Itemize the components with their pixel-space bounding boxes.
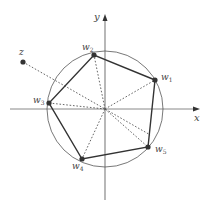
coordinate-axes [10, 14, 200, 200]
point-w2 [91, 52, 96, 57]
point-w3 [46, 100, 51, 105]
label-w2: w2 [82, 42, 94, 53]
label-z: z [18, 47, 24, 57]
y-axis-label: y [93, 11, 100, 22]
x-arrow-icon [193, 107, 200, 112]
labels: w1w2w3w4w5zxy [18, 11, 200, 172]
label-w1: w1 [161, 72, 173, 83]
point-z [20, 59, 25, 64]
ray-w5 [105, 109, 148, 147]
dotted-rays [23, 55, 155, 159]
ray-w2 [94, 55, 105, 109]
points [20, 52, 157, 161]
point-w5 [145, 144, 150, 149]
label-w3: w3 [33, 95, 45, 106]
polygon-diagram: w1w2w3w4w5zxy [0, 0, 208, 211]
ray-w3 [49, 103, 105, 109]
y-arrow-icon [103, 14, 108, 21]
x-axis-label: x [194, 112, 200, 123]
label-w5: w5 [155, 144, 167, 155]
point-w1 [152, 77, 157, 82]
point-w4 [79, 156, 84, 161]
ray-w4 [82, 109, 105, 159]
pentagon-outline [49, 55, 155, 159]
pentagon [49, 55, 155, 159]
ray-w1 [105, 80, 155, 109]
